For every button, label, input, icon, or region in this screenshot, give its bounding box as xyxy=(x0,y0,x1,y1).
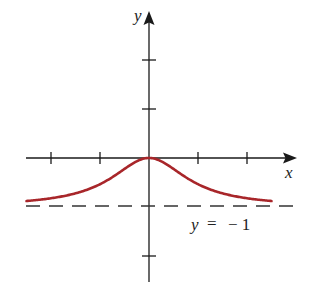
asymptote-label-value: − 1 xyxy=(228,215,250,234)
asymptote-label-y: y xyxy=(189,215,199,234)
axes xyxy=(26,11,297,282)
x-axis-label: x xyxy=(284,163,293,182)
chart-canvas: x y y = − 1 xyxy=(0,0,320,285)
asymptote-label-eq: = xyxy=(207,214,217,233)
y-axis-label: y xyxy=(132,6,142,25)
